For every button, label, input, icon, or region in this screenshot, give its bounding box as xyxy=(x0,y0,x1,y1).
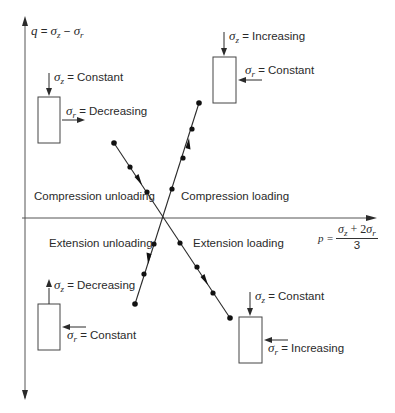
specimen-1-sigma-r-label: σr = Decreasing xyxy=(66,104,147,119)
subscript-z: z xyxy=(344,228,348,238)
q-axis-arrow-up-icon xyxy=(22,16,28,26)
region-compression-loading: Compression loading xyxy=(181,190,289,202)
sigma-r-state: Constant xyxy=(90,329,136,341)
subscript-z: z xyxy=(60,76,64,86)
subscript-z: z xyxy=(235,35,239,45)
specimen-2-sigma-z-label: σz = Increasing xyxy=(229,29,305,44)
sigma-z-arrow-up-icon xyxy=(46,279,52,287)
subscript-r: r xyxy=(72,110,76,120)
equals-sign: = xyxy=(64,279,77,291)
subscript-r: r xyxy=(372,228,376,238)
specimen-4-sigma-r-label: σr = Increasing xyxy=(268,341,344,356)
plus-two: + 2 xyxy=(347,222,366,236)
p-axis-arrow-right-icon xyxy=(366,215,377,221)
p-fraction-numerator: σz + 2σr xyxy=(336,222,378,239)
subscript-z: z xyxy=(60,284,64,294)
specimen-3-sigma-z-label: σz = Decreasing xyxy=(54,278,135,293)
p-axis-label-fraction: σz + 2σr 3 xyxy=(336,222,378,251)
sigma-z-state: Constant xyxy=(278,290,324,302)
equals-sign: = xyxy=(76,105,89,117)
sigma-r-state: Decreasing xyxy=(89,105,147,117)
q-axis-arrow-down-icon xyxy=(22,390,28,400)
region-extension-loading: Extension loading xyxy=(193,237,284,249)
subscript-r: r xyxy=(73,334,77,344)
equals-sign: = xyxy=(239,30,252,42)
equals-sign: = xyxy=(38,25,51,37)
p-fraction-denominator: 3 xyxy=(336,239,378,251)
subscript-r: r xyxy=(274,347,278,357)
equals-sign: = xyxy=(77,329,90,341)
p-axis xyxy=(22,215,377,221)
specimen-2-sigma-r-label: σr = Constant xyxy=(245,63,314,78)
stress-path-compression-loading-extension-unloading xyxy=(132,100,202,307)
q-axis xyxy=(22,16,28,400)
p-symbol: p = xyxy=(318,232,334,244)
region-extension-unloading: Extension unloading xyxy=(49,237,153,249)
stress-path-compression-unloading-extension-loading xyxy=(111,140,233,321)
sigma-z-state: Decreasing xyxy=(77,279,135,291)
subscript-z: z xyxy=(57,30,61,40)
sigma-z-state: Constant xyxy=(77,71,123,83)
subscript-r: r xyxy=(80,30,84,40)
sigma-z-arrow-down-icon xyxy=(46,88,52,96)
subscript-z: z xyxy=(261,295,265,305)
p-axis-label-prefix: p = xyxy=(318,232,334,245)
sigma-r-state: Increasing xyxy=(291,342,344,354)
subscript-r: r xyxy=(251,69,255,79)
specimen-1-sigma-z-label: σz = Constant xyxy=(54,70,123,85)
sigma-z-arrow-down-icon xyxy=(247,308,253,316)
sigma-z-state: Increasing xyxy=(252,30,305,42)
specimen-4-sigma-z-label: σz = Constant xyxy=(255,289,324,304)
equals-sign: = xyxy=(255,64,268,76)
specimen-3-sigma-r-label: σr = Constant xyxy=(67,328,136,343)
sigma-z-arrow-down-icon xyxy=(221,48,227,56)
equals-sign: = xyxy=(64,71,77,83)
q-axis-label: q = σz − σr xyxy=(31,24,84,39)
region-compression-unloading: Compression unloading xyxy=(34,190,155,202)
minus-sign: − xyxy=(61,25,74,37)
path-direction-arrow-icon xyxy=(147,253,152,265)
equals-sign: = xyxy=(265,290,278,302)
equals-sign: = xyxy=(278,342,291,354)
sigma-r-state: Constant xyxy=(268,64,314,76)
